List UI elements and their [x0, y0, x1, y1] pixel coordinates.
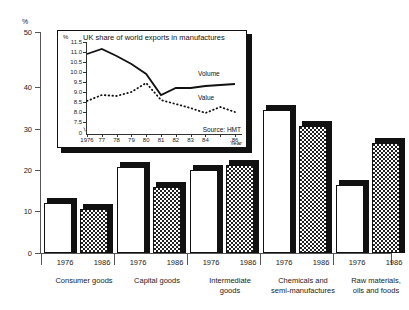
main-y-label-20: 20	[14, 166, 32, 175]
main-y-tick-30	[35, 129, 40, 130]
bar-shadow-right-raw-1976	[364, 185, 369, 253]
bar-shadow-right-consumer-1986	[108, 209, 113, 253]
bar-intermediate-1986	[226, 165, 254, 253]
main-y-label-0: 0	[14, 249, 32, 258]
bar-raw-1986	[372, 143, 400, 254]
group-separator-0	[41, 253, 42, 265]
main-y-tick-40	[35, 87, 40, 88]
main-x-axis-line	[40, 253, 392, 254]
main-y-unit-label: %	[22, 18, 28, 25]
bar-intermediate-1976	[190, 170, 218, 253]
bar-shadow-right-intermediate-1976	[218, 170, 223, 253]
bar-raw-1976	[336, 185, 364, 253]
main-y-label-50: 50	[14, 28, 32, 37]
bar-chemicals-1986	[299, 126, 327, 253]
main-y-label-10: 10	[14, 207, 32, 216]
bar-shadow-right-capital-1976	[145, 167, 150, 253]
inset-chart: % UK share of world exports in manufactu…	[57, 30, 247, 148]
bar-capital-1976	[117, 167, 145, 253]
bar-group-raw	[336, 32, 409, 253]
bar-shadow-right-intermediate-1986	[254, 165, 259, 253]
x-category-raw-line1: Raw materials,	[330, 276, 409, 286]
main-y-label-30: 30	[14, 125, 32, 134]
inset-source-note: Source: HMT	[203, 126, 241, 133]
main-y-tick-10	[35, 211, 40, 212]
bar-chemicals-1976	[263, 110, 291, 253]
bar-shadow-right-chemicals-1986	[327, 126, 332, 253]
x-year-intermediate-1976: 1976	[190, 258, 232, 267]
inset-x-axis-label: Year	[230, 140, 242, 146]
bar-consumer-1986	[80, 209, 108, 253]
bar-consumer-1976	[44, 203, 72, 253]
inset-legend-volume: Volume	[198, 70, 220, 77]
x-category-raw-line2: oils and foods	[330, 286, 409, 296]
x-year-raw-1986: 1986	[373, 258, 409, 267]
x-year-raw-1976: 1976	[336, 258, 378, 267]
inset-legend-value: Value	[198, 94, 214, 101]
bar-shadow-right-raw-1986	[400, 143, 405, 254]
main-y-tick-0	[35, 253, 40, 254]
bar-shadow-right-chemicals-1976	[291, 110, 296, 253]
x-year-chemicals-1976: 1976	[263, 258, 305, 267]
bar-capital-1986	[153, 187, 181, 253]
x-category-raw: Raw materials, oils and foods	[330, 276, 409, 295]
main-y-tick-50	[35, 32, 40, 33]
bar-shadow-right-capital-1986	[181, 187, 186, 253]
bar-shadow-right-consumer-1976	[72, 203, 77, 253]
x-year-capital-1976: 1976	[117, 258, 159, 267]
x-year-consumer-1976: 1976	[44, 258, 86, 267]
main-y-label-40: 40	[14, 83, 32, 92]
main-y-tick-20	[35, 170, 40, 171]
bar-group-chemicals	[263, 32, 336, 253]
